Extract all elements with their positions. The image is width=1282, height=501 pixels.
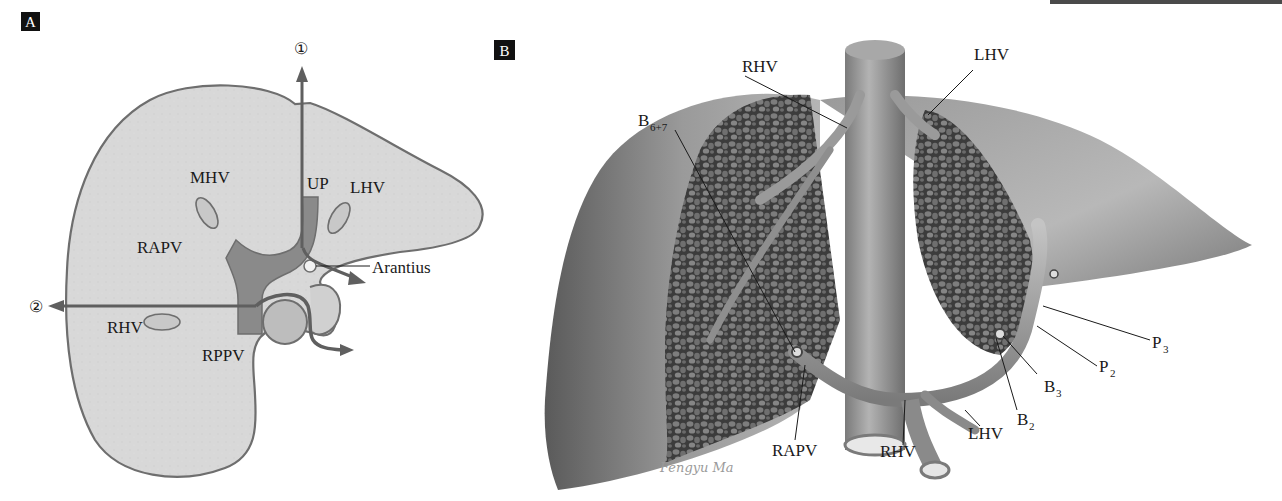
label-lhv-top: LHV [974,45,1010,64]
label-rhv-bottom: RHV [880,442,917,461]
label-rapv: RAPV [137,238,183,257]
label-rapv-b: RAPV [772,441,818,460]
leader-p3 [1043,306,1150,340]
ivc-circle [263,300,307,344]
p3-duct [1050,270,1058,278]
label-arrow-1: ① [294,40,308,57]
panel-b: B Fengyu Ma [494,0,1282,490]
rhv-ellipse [144,314,180,330]
label-b67: B 6+7 [638,111,668,133]
label-b2: B 2 [1017,410,1035,432]
label-p2: P 2 [1099,357,1116,379]
label-rppv: RPPV [202,346,245,365]
label-arantius: Arantius [372,258,431,277]
panel-a: A ① ② MH [21,12,483,477]
leader-p2 [1037,326,1097,366]
rhv-lower-opening [921,462,949,478]
b3-duct [995,329,1005,339]
label-b2-base: B [1017,410,1028,429]
label-rhv: RHV [107,318,144,337]
label-rhv-top: RHV [742,57,779,76]
label-up: UP [307,174,329,193]
label-arrow-2: ② [29,298,43,315]
label-mhv: MHV [190,168,230,187]
label-p3: P 3 [1152,333,1169,355]
label-p3-sub: 3 [1163,343,1169,355]
label-p3-base: P [1152,333,1161,352]
figure-canvas: A ① ② MH [0,0,1282,501]
panel-b-tag-text: B [499,43,509,59]
label-b67-base: B [638,111,649,130]
label-p2-sub: 2 [1110,367,1116,379]
label-b2-sub: 2 [1029,420,1035,432]
label-b3-base: B [1044,377,1055,396]
label-b3: B 3 [1044,377,1062,399]
label-b3-sub: 3 [1056,387,1062,399]
liver-outline-a [66,85,483,476]
label-lhv: LHV [350,178,386,197]
label-b67-sub: 6+7 [650,121,668,133]
label-lhv-bottom: LHV [968,424,1004,443]
label-p2-base: P [1099,357,1108,376]
artist-signature: Fengyu Ma [659,460,734,475]
panel-a-tag-text: A [25,14,36,30]
header-bar [1050,0,1282,4]
ivc-top [845,40,905,60]
